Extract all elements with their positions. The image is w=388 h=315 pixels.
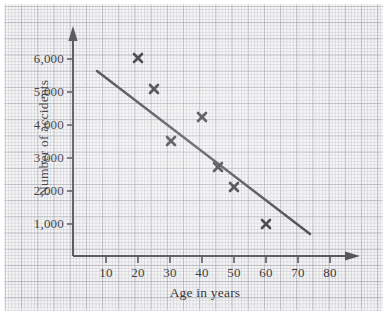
y-axis-title: Number of accidents <box>36 80 52 196</box>
trend-line <box>97 71 310 234</box>
data-point-marker <box>230 183 238 191</box>
y-axis-arrow-icon <box>68 26 77 41</box>
y-axis <box>68 26 77 256</box>
data-point-marker <box>262 220 270 228</box>
data-points <box>134 54 270 228</box>
x-tick-label-30: 30 <box>152 265 188 281</box>
scatter-plot-figure: 6,000 5,000 4,000 3,000 2,000 1,000 10 2… <box>0 0 388 315</box>
data-point-marker <box>198 113 206 121</box>
x-tick-label-50: 50 <box>216 265 252 281</box>
y-tick-label-6000: 6,000 <box>8 51 64 67</box>
x-tick-label-20: 20 <box>120 265 156 281</box>
x-axis <box>73 251 360 260</box>
data-point-marker <box>150 85 158 93</box>
x-tick-label-40: 40 <box>184 265 220 281</box>
x-tick-label-60: 60 <box>248 265 284 281</box>
data-point-marker <box>134 54 142 62</box>
x-tick-label-70: 70 <box>280 265 316 281</box>
x-axis-arrow-icon <box>345 251 360 260</box>
x-tick-label-80: 80 <box>312 265 348 281</box>
x-tick-label-10: 10 <box>88 265 124 281</box>
y-tick-label-1000: 1,000 <box>8 216 64 232</box>
data-point-marker <box>167 137 175 145</box>
x-axis-title: Age in years <box>150 285 260 301</box>
